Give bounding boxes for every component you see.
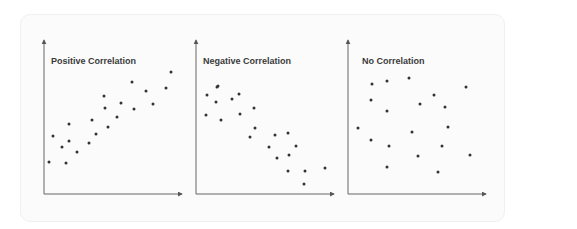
data-point: [131, 81, 134, 84]
data-point: [303, 183, 306, 186]
panel-title-positive: Positive Correlation: [51, 56, 136, 66]
data-point: [239, 113, 242, 116]
data-point: [386, 110, 389, 113]
data-point: [107, 126, 110, 129]
data-point: [287, 170, 290, 173]
data-point: [447, 126, 450, 129]
data-point: [408, 77, 411, 80]
data-point: [88, 142, 91, 145]
data-point: [274, 134, 277, 137]
data-point: [91, 119, 94, 122]
data-point: [133, 108, 136, 111]
data-point: [205, 114, 208, 117]
data-point: [249, 136, 252, 139]
data-point: [61, 146, 64, 149]
data-point: [165, 87, 168, 90]
data-point: [370, 139, 373, 142]
data-point: [268, 146, 271, 149]
data-point: [253, 107, 256, 110]
data-point: [419, 103, 422, 106]
data-point: [295, 145, 298, 148]
data-point: [145, 90, 148, 93]
data-point: [324, 167, 327, 170]
data-point: [254, 127, 257, 130]
data-point: [76, 151, 79, 154]
data-point: [215, 101, 218, 104]
data-point: [357, 127, 360, 130]
data-point: [370, 99, 373, 102]
data-point: [152, 103, 155, 106]
data-point: [444, 106, 447, 109]
data-point: [206, 94, 209, 97]
data-point: [276, 157, 279, 160]
data-point: [417, 155, 420, 158]
data-point: [217, 85, 220, 88]
data-point: [411, 131, 414, 134]
data-point: [103, 95, 106, 98]
data-point: [65, 162, 68, 165]
data-point: [433, 94, 436, 97]
data-point: [437, 171, 440, 174]
data-point: [388, 145, 391, 148]
data-point: [48, 161, 51, 164]
data-point: [304, 170, 307, 173]
data-point: [469, 154, 472, 157]
data-point: [386, 80, 389, 83]
data-point: [68, 123, 71, 126]
data-point: [95, 133, 98, 136]
data-point: [371, 83, 374, 86]
panel-title-none: No Correlation: [362, 56, 425, 66]
data-point: [288, 154, 291, 157]
data-point: [120, 102, 123, 105]
data-point: [465, 86, 468, 89]
panel-title-negative: Negative Correlation: [203, 56, 291, 66]
data-point: [116, 116, 119, 119]
data-point: [104, 107, 107, 110]
scatter-panels: Positive Correlation Negative Correlatio…: [0, 0, 577, 229]
data-point: [238, 93, 241, 96]
data-point: [441, 145, 444, 148]
data-point: [52, 135, 55, 138]
data-point: [68, 140, 71, 143]
scatter-points: [48, 71, 472, 186]
data-point: [386, 166, 389, 169]
data-point: [287, 132, 290, 135]
data-point: [220, 119, 223, 122]
data-point: [170, 71, 173, 74]
data-point: [231, 98, 234, 101]
